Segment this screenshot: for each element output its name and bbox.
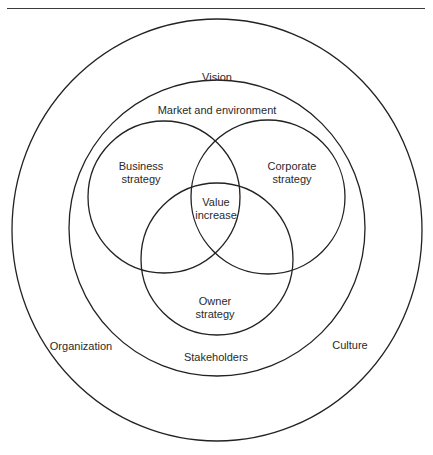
culture-label: Culture <box>332 339 367 352</box>
corporate-strategy-line2: strategy <box>268 173 317 186</box>
corporate-strategy-line1: Corporate <box>268 160 317 173</box>
value-increase-line1: Value <box>195 196 237 209</box>
business-strategy-line1: Business <box>119 160 164 173</box>
value-increase-label: Value increase <box>195 196 237 222</box>
market-environment-label: Market and environment <box>158 104 277 117</box>
value-increase-line2: increase <box>195 209 237 222</box>
vision-label: Vision <box>202 71 232 84</box>
owner-strategy-line1: Owner <box>195 295 234 308</box>
corporate-strategy-label: Corporate strategy <box>268 160 317 186</box>
owner-strategy-label: Owner strategy <box>195 295 234 321</box>
owner-strategy-line2: strategy <box>195 308 234 321</box>
business-strategy-line2: strategy <box>119 173 164 186</box>
venn-diagram <box>0 0 433 455</box>
middle-ring-circle <box>69 80 365 376</box>
stakeholders-label: Stakeholders <box>184 351 248 364</box>
organization-label: Organization <box>50 340 112 353</box>
business-strategy-label: Business strategy <box>119 160 164 186</box>
